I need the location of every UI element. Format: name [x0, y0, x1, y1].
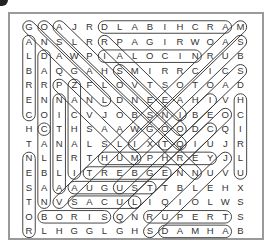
grid-letter[interactable]: B — [128, 108, 142, 122]
grid-letter[interactable]: O — [113, 108, 127, 122]
grid-letter[interactable]: I — [188, 137, 202, 151]
grid-letter[interactable]: V — [52, 195, 66, 209]
grid-letter[interactable]: L — [98, 224, 112, 238]
grid-letter[interactable]: A — [67, 137, 81, 151]
grid-letter[interactable]: S — [233, 210, 247, 224]
grid-letter[interactable]: G — [98, 181, 112, 195]
grid-letter[interactable]: W — [188, 35, 202, 49]
grid-letter[interactable]: A — [37, 64, 51, 78]
grid-letter[interactable]: W — [67, 49, 81, 63]
grid-letter[interactable]: I — [173, 108, 187, 122]
grid-letter[interactable]: E — [113, 166, 127, 180]
grid-letter[interactable]: N — [52, 93, 66, 107]
grid-letter[interactable]: U — [233, 166, 247, 180]
grid-letter[interactable]: H — [128, 224, 142, 238]
grid-letter[interactable]: O — [188, 195, 202, 209]
grid-letter[interactable]: V — [218, 93, 232, 107]
grid-letter[interactable]: S — [98, 137, 112, 151]
grid-letter[interactable]: G — [143, 35, 157, 49]
grid-letter[interactable]: D — [233, 78, 247, 92]
grid-letter[interactable]: S — [82, 122, 96, 136]
grid-letter[interactable]: H — [233, 93, 247, 107]
grid-letter[interactable]: L — [128, 49, 142, 63]
grid-letter[interactable]: A — [82, 64, 96, 78]
grid-letter[interactable]: R — [143, 210, 157, 224]
grid-letter[interactable]: N — [22, 151, 36, 165]
grid-letter[interactable]: S — [22, 181, 36, 195]
grid-letter[interactable]: L — [67, 35, 81, 49]
grid-letter[interactable]: I — [203, 93, 217, 107]
grid-letter[interactable]: A — [218, 35, 232, 49]
grid-letter[interactable]: B — [233, 49, 247, 63]
grid-letter[interactable]: N — [128, 93, 142, 107]
grid-letter[interactable]: U — [113, 181, 127, 195]
grid-letter[interactable]: D — [188, 122, 202, 136]
grid-letter[interactable]: S — [233, 64, 247, 78]
grid-letter[interactable]: A — [52, 20, 66, 34]
grid-letter[interactable]: T — [22, 137, 36, 151]
grid-letter[interactable]: N — [82, 93, 96, 107]
grid-letter[interactable]: N — [37, 35, 51, 49]
grid-letter[interactable]: D — [158, 224, 172, 238]
grid-letter[interactable]: A — [128, 20, 142, 34]
grid-letter[interactable]: J — [98, 108, 112, 122]
grid-letter[interactable]: R — [82, 20, 96, 34]
grid-letter[interactable]: E — [203, 181, 217, 195]
grid-letter[interactable]: R — [173, 151, 187, 165]
grid-letter[interactable]: U — [203, 166, 217, 180]
grid-letter[interactable]: W — [128, 122, 142, 136]
grid-letter[interactable]: I — [173, 195, 187, 209]
grid-letter[interactable]: N — [37, 93, 51, 107]
grid-letter[interactable]: L — [203, 195, 217, 209]
grid-letter[interactable]: R — [203, 210, 217, 224]
grid-letter[interactable]: H — [158, 151, 172, 165]
grid-letter[interactable]: J — [218, 137, 232, 151]
grid-letter[interactable]: I — [52, 108, 66, 122]
grid-letter[interactable]: I — [98, 49, 112, 63]
grid-letter[interactable]: A — [128, 35, 142, 49]
grid-letter[interactable]: M — [188, 224, 202, 238]
grid-letter[interactable]: S — [67, 195, 81, 209]
grid-letter[interactable]: V — [82, 108, 96, 122]
grid-letter[interactable]: C — [188, 20, 202, 34]
grid-letter[interactable]: T — [143, 181, 157, 195]
grid-letter[interactable]: T — [188, 78, 202, 92]
grid-letter[interactable]: A — [67, 93, 81, 107]
grid-letter[interactable]: H — [218, 181, 232, 195]
grid-letter[interactable]: A — [113, 122, 127, 136]
grid-letter[interactable]: O — [158, 122, 172, 136]
grid-letter[interactable]: A — [52, 49, 66, 63]
grid-letter[interactable]: L — [37, 224, 51, 238]
grid-letter[interactable]: O — [37, 20, 51, 34]
grid-letter[interactable]: O — [173, 78, 187, 92]
grid-letter[interactable]: J — [67, 20, 81, 34]
grid-letter[interactable]: A — [52, 181, 66, 195]
grid-letter[interactable]: H — [67, 122, 81, 136]
grid-letter[interactable]: C — [158, 49, 172, 63]
grid-letter[interactable]: T — [52, 122, 66, 136]
grid-letter[interactable]: L — [113, 20, 127, 34]
grid-letter[interactable]: A — [113, 49, 127, 63]
grid-letter[interactable]: U — [158, 210, 172, 224]
grid-letter[interactable]: R — [37, 78, 51, 92]
grid-letter[interactable]: A — [67, 181, 81, 195]
grid-letter[interactable]: I — [143, 64, 157, 78]
grid-letter[interactable]: R — [82, 35, 96, 49]
grid-letter[interactable]: B — [233, 224, 247, 238]
grid-letter[interactable]: E — [52, 151, 66, 165]
grid-letter[interactable]: M — [233, 20, 247, 34]
grid-letter[interactable]: N — [128, 210, 142, 224]
grid-letter[interactable]: E — [158, 93, 172, 107]
grid-letter[interactable]: T — [22, 195, 36, 209]
grid-letter[interactable]: P — [173, 210, 187, 224]
grid-letter[interactable]: L — [128, 195, 142, 209]
grid-letter[interactable]: V — [218, 166, 232, 180]
grid-letter[interactable]: X — [233, 181, 247, 195]
grid-letter[interactable]: L — [98, 78, 112, 92]
grid-letter[interactable]: R — [173, 35, 187, 49]
grid-letter[interactable]: C — [188, 64, 202, 78]
grid-letter[interactable]: B — [128, 166, 142, 180]
grid-letter[interactable]: L — [82, 137, 96, 151]
grid-letter[interactable]: C — [203, 122, 217, 136]
grid-letter[interactable]: A — [37, 137, 51, 151]
